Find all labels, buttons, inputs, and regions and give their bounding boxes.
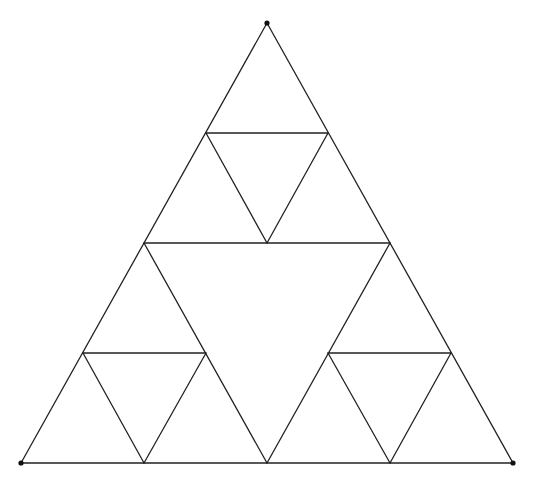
vertex-dot [264,20,269,25]
vertex-dot [510,460,515,465]
vertex-dot [18,460,23,465]
diagram-canvas [0,0,534,486]
edge-line [390,353,451,463]
sierpinski-triangle [0,0,534,486]
edge-line [267,133,328,243]
edge-line [328,353,390,463]
edge-line [83,353,144,463]
edge-line [206,133,267,243]
triangle-edges [21,23,513,463]
edge-line [144,353,206,463]
